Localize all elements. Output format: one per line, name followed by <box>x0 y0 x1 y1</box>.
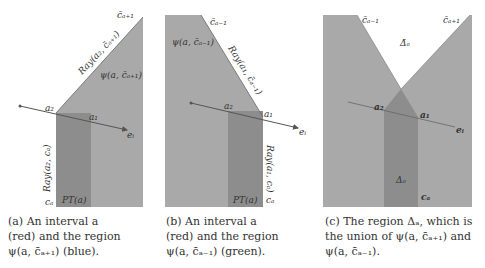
caption-c-line: the union of ψ(a, c̄ₐ₊₁) and <box>325 229 485 244</box>
label-a2: a₂ <box>374 102 384 112</box>
label-a2: a₂ <box>224 101 233 111</box>
caption-b-line: (red) and the region <box>166 229 316 244</box>
caption-a-line: (red) and the region <box>8 229 158 244</box>
label-delta-bar: Δ̄ₐ <box>399 38 410 48</box>
caption-a-line: ψ(a, c̄ₐ₊₁) (blue). <box>8 244 158 259</box>
panel-c: c̄ₐ₋₁ c̄ₐ₊₁ Δ̄ₐ a₂ a₁ eᵢ Δₐ cₐ <box>323 15 472 207</box>
label-top: c̄ₐ₊₁ <box>117 10 134 20</box>
label-pt: PT(a) <box>61 195 87 205</box>
label-ray-bottom: Ray(a₂, cₐ) <box>42 144 52 193</box>
label-top: c̄ₐ₋₁ <box>210 17 227 27</box>
caption-a: (a) An interval a (red) and the region ψ… <box>8 214 158 259</box>
label-top-left: c̄ₐ₋₁ <box>362 15 379 25</box>
label-a2: a₂ <box>45 103 54 113</box>
caption-b: (b) An interval a (red) and the region ψ… <box>166 214 316 259</box>
label-delta: Δₐ <box>395 175 406 185</box>
label-ei: eᵢ <box>127 130 134 140</box>
caption-b-line: ψ(a, c̄ₐ₋₁) (green). <box>166 244 316 259</box>
label-ca: cₐ <box>266 195 274 205</box>
label-a1: a₁ <box>420 110 430 120</box>
label-ca: cₐ <box>45 197 53 207</box>
label-region: ψ(a, c̄ₐ₋₁) <box>172 37 214 47</box>
interval-a-strip <box>228 111 263 207</box>
label-ray-bottom: Ray(a₁, cₐ) <box>265 144 275 193</box>
label-top-right: c̄ₐ₊₁ <box>443 15 460 25</box>
interval-a-strip <box>56 113 91 207</box>
label-region: ψ(a, c̄ₐ₊₁) <box>100 70 142 80</box>
caption-c-line: (c) The region Δₐ, which is <box>325 214 485 229</box>
panel-b: c̄ₐ₋₁ ψ(a, c̄ₐ₋₁) Ray(a₁, c̄ₐ₋₁) a₂ a₁ e… <box>165 15 306 207</box>
label-a1: a₁ <box>264 109 273 119</box>
label-ei: eᵢ <box>456 125 464 135</box>
label-ca: cₐ <box>421 192 430 202</box>
caption-a-line: (a) An interval a <box>8 214 158 229</box>
caption-c-line: ψ(a, c̄ₐ₋₁). <box>325 244 485 259</box>
caption-c: (c) The region Δₐ, which is the union of… <box>325 214 485 259</box>
panel-a: c̄ₐ₊₁ Ray(a₂, c̄ₐ₊₁) ψ(a, c̄ₐ₊₁) a₂ a₁ e… <box>20 10 143 207</box>
label-pt: PT(a) <box>232 195 258 205</box>
caption-b-line: (b) An interval a <box>166 214 316 229</box>
label-a1: a₁ <box>89 112 98 122</box>
label-ei: eᵢ <box>299 127 306 137</box>
